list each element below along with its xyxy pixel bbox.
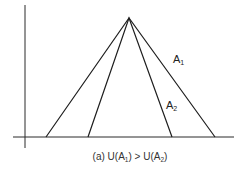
label-a1: A1 xyxy=(173,54,184,66)
caption-prefix: (a) U(A xyxy=(93,151,125,162)
triangle-a2 xyxy=(88,18,172,137)
figure-caption: (a) U(A1) > U(A2) xyxy=(0,151,247,163)
caption-middle: ) > U(A xyxy=(128,151,160,162)
caption-suffix: ) xyxy=(164,151,167,162)
label-a1-sub: 1 xyxy=(180,59,184,66)
label-a2-sub: 2 xyxy=(173,105,177,112)
label-a2: A2 xyxy=(166,100,177,112)
triangle-a1 xyxy=(46,18,215,137)
fuzzy-triangles-diagram xyxy=(0,0,247,171)
